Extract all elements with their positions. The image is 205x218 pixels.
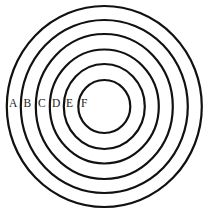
ring-label-e: E: [66, 97, 73, 109]
ring-label-f: F: [81, 97, 87, 109]
rings-group: [7, 6, 202, 207]
ring-label-c: C: [38, 97, 46, 109]
ring-e: [64, 64, 145, 149]
ring-label-a: A: [9, 97, 18, 109]
ring-b: [21, 20, 188, 193]
concentric-circles-diagram: A B C D E F: [0, 0, 205, 218]
ring-label-d: D: [52, 97, 60, 109]
ring-label-b: B: [24, 97, 32, 109]
